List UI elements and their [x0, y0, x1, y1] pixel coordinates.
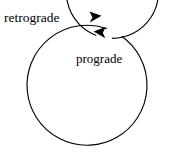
inner-orbit-label: prograde	[76, 51, 122, 66]
arrowhead-left-icon	[94, 27, 106, 38]
diagram-canvas: Prograde and retrograde orbital motion d…	[0, 0, 171, 162]
inner-orbit-circle	[66, 0, 158, 38]
orbital-direction-diagram: Prograde and retrograde orbital motion d…	[0, 0, 171, 162]
outer-orbit-label: retrograde	[4, 10, 59, 25]
arrowhead-right-icon	[90, 12, 102, 23]
outer-orbit-circle	[27, 25, 147, 145]
